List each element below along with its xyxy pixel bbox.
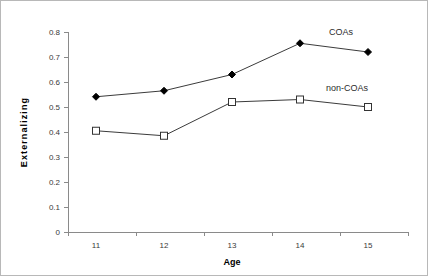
x-tick-label-14: 14: [296, 241, 305, 250]
data-point-coas-13: [229, 71, 236, 78]
y-tick-label-5: 0.5: [49, 103, 61, 112]
y-tick-label-2: 0.2: [49, 178, 61, 187]
y-axis-label: Externalizing: [19, 97, 29, 167]
data-point-coas-14: [297, 40, 304, 47]
y-tick-label-7: 0.7: [49, 53, 61, 62]
x-axis-title: Age: [223, 257, 240, 267]
data-point-non-coas-15: [365, 104, 372, 111]
x-tick-label-13: 13: [228, 241, 237, 250]
series-annotation-coas: COAs: [329, 27, 354, 37]
x-tick-label-11: 11: [92, 241, 101, 250]
data-point-coas-12: [161, 87, 168, 94]
y-tick-label-4: 0.4: [49, 128, 61, 137]
x-tick-label-12: 12: [160, 241, 169, 250]
y-tick-label-8: 0.8: [49, 28, 61, 37]
chart-figure: Externalizing 0 0.1 0.2 0.3 0.4 0.5 0.6 …: [0, 0, 428, 276]
data-point-non-coas-12: [161, 132, 168, 139]
y-tick-label-0: 0: [56, 228, 61, 237]
data-point-non-coas-13: [229, 99, 236, 106]
x-axis-ticks: [68, 232, 408, 236]
x-tick-label-15: 15: [364, 241, 373, 250]
y-tick-label-1: 0.1: [49, 203, 61, 212]
data-point-coas-11: [93, 93, 100, 100]
data-point-non-coas-14: [297, 96, 304, 103]
series-non-coas: [93, 96, 372, 139]
y-tick-label-6: 0.6: [49, 78, 61, 87]
line-chart: Externalizing 0 0.1 0.2 0.3 0.4 0.5 0.6 …: [1, 1, 428, 276]
y-tick-label-3: 0.3: [49, 153, 61, 162]
data-point-non-coas-11: [93, 127, 100, 134]
y-axis-ticks: [64, 32, 68, 232]
data-point-coas-15: [365, 49, 372, 56]
series-annotation-non-coas: non-COAs: [326, 83, 369, 93]
